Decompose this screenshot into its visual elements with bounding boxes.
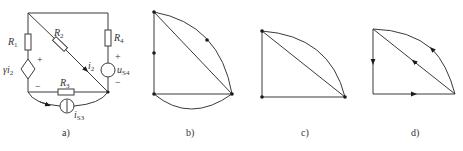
current-arrow-is3	[40, 102, 48, 105]
node	[343, 95, 347, 99]
directed-edge	[373, 29, 432, 49]
dependent-voltage-source-icon	[21, 59, 35, 79]
edge	[154, 94, 232, 109]
directed-edge	[373, 29, 455, 94]
node	[260, 29, 264, 33]
plus-sign: +	[115, 51, 121, 62]
edge	[154, 12, 232, 94]
directed-edge	[432, 49, 455, 94]
panel-d-directed-graph: d)	[373, 29, 455, 139]
minus-sign: −	[115, 77, 121, 88]
label-r1: R1	[7, 36, 18, 49]
caption-d: d)	[411, 127, 419, 139]
edge	[262, 31, 345, 97]
label-is3: iS3	[74, 109, 85, 122]
label-i2: i2	[88, 60, 95, 73]
panel-c-graph: c)	[260, 29, 347, 139]
label-dep-source: γi2	[3, 64, 14, 77]
node	[260, 95, 264, 99]
node	[152, 92, 156, 96]
plus-sign: +	[37, 54, 43, 65]
label-r3: R3	[59, 77, 70, 90]
caption-c: c)	[301, 127, 309, 139]
label-us4: uS4	[117, 64, 130, 77]
node	[230, 92, 234, 96]
node	[152, 10, 156, 14]
wire-is3	[74, 92, 108, 106]
node	[106, 90, 109, 93]
caption-b: b)	[186, 127, 194, 139]
circuit-figure: R1 + − γi2 R2 i2 R4 + − uS4 R3 iS3 a)	[0, 0, 463, 151]
caption-a: a)	[62, 127, 70, 139]
voltage-source-us4-icon	[101, 63, 115, 77]
wire-diagonal	[28, 13, 54, 38]
resistor-r4	[105, 30, 111, 46]
node	[152, 51, 156, 55]
node	[205, 38, 209, 42]
panel-a-circuit: R1 + − γi2 R2 i2 R4 + − uS4 R3 iS3 a)	[3, 13, 130, 139]
panel-b-graph: b)	[152, 10, 234, 139]
minus-sign: −	[35, 81, 41, 92]
resistor-r1	[25, 34, 31, 50]
label-r4: R4	[113, 32, 124, 45]
